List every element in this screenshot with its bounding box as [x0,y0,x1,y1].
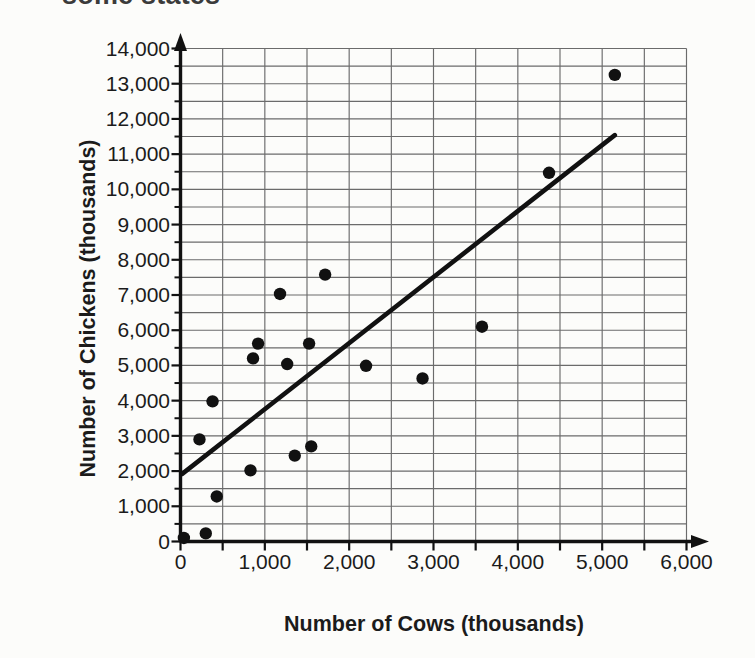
data-point [476,320,488,332]
data-point [252,337,264,349]
trend-line [182,135,615,474]
data-point [416,372,428,384]
data-point [211,490,223,502]
trend-line-segment [182,135,615,474]
data-point [289,449,301,461]
data-point [244,464,256,476]
data-point [281,358,293,370]
data-point [274,288,286,300]
data-point [360,360,372,372]
x-axis-arrowhead [691,535,709,548]
data-point [206,395,218,407]
data-point [543,167,555,179]
data-point [305,440,317,452]
data-point [247,352,259,364]
plot-area [0,0,755,658]
data-point [193,433,205,445]
data-point [319,268,331,280]
scatter-plot-figure: some states Number of Chickens (thousand… [0,0,755,658]
data-point [178,532,190,544]
grid-lines [181,49,687,542]
data-point [200,527,212,539]
data-point [609,69,621,81]
data-point [303,337,315,349]
